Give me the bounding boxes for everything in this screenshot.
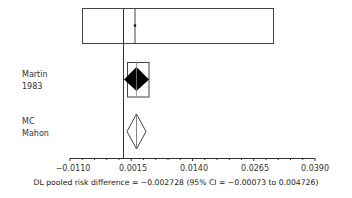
study-label-mcmahon-2: Mahon [22, 128, 49, 139]
x-tick-label: 0.0390 [301, 164, 329, 173]
x-axis-ticks [70, 158, 315, 161]
study-label-martin-1: Martin [22, 69, 48, 80]
x-tick-label: 0.0015 [119, 164, 147, 173]
top-study-ci-box [83, 9, 274, 44]
study-label-mcmahon-1: MC [22, 116, 35, 127]
x-tick-label: 0.0140 [180, 164, 208, 173]
x-tick-label: −0.0110 [56, 164, 91, 173]
top-study-point [134, 24, 137, 27]
x-axis-caption: DL pooled risk difference = −0.002728 (9… [0, 178, 352, 187]
study-label-martin-2: 1983 [22, 81, 42, 92]
forest-plot [0, 0, 352, 198]
x-tick-label: 0.0265 [241, 164, 269, 173]
